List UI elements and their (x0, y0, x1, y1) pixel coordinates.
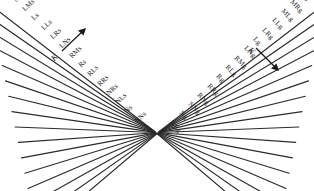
left-family-lines (0, 4, 157, 191)
lattice-line-right (157, 134, 279, 191)
lattice-line-right (158, 133, 295, 143)
lattice-line-right (158, 133, 286, 188)
right-family-lines (157, 4, 314, 191)
lattice-figure: K K MLsMsMNsLMsLsLLsLRsLNsRMsRsRLsRRsNRs… (0, 0, 314, 191)
lattice-line-right (158, 133, 283, 191)
lattice-line-left (18, 133, 155, 143)
lattice-line-left (28, 133, 156, 188)
lattice-line-right (157, 134, 276, 191)
lattice-line-left (34, 134, 156, 191)
lattice-line-left (5, 81, 154, 132)
lattice-line-right (159, 81, 308, 132)
lattice-line-left (31, 133, 156, 191)
lattice-line-left (38, 134, 157, 191)
